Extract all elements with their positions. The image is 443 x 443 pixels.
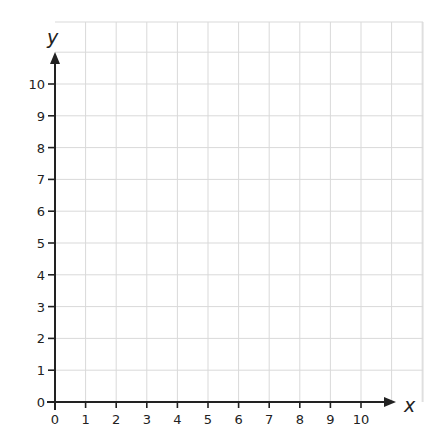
x-tick-label: 9 [326,412,334,427]
y-tick-label: 10 [28,77,45,92]
x-tick-label: 7 [265,412,273,427]
x-axis-arrow-icon [384,397,396,407]
y-axis-label: y [46,26,59,48]
y-tick-label: 1 [37,363,45,378]
y-tick-label: 0 [37,395,45,410]
axes [47,52,396,410]
x-tick-label: 5 [204,412,212,427]
coordinate-grid-chart: 012345678910012345678910 x y [0,0,443,443]
y-tick-label: 4 [37,268,45,283]
y-tick-label: 2 [37,331,45,346]
y-axis-arrow-icon [50,52,60,64]
y-tick-label: 7 [37,172,45,187]
x-tick-label: 1 [81,412,89,427]
x-tick-label: 10 [353,412,370,427]
ticks [48,84,361,408]
x-axis-label: x [403,394,416,416]
y-tick-label: 6 [37,204,45,219]
y-tick-label: 5 [37,236,45,251]
y-tick-label: 8 [37,141,45,156]
x-tick-label: 6 [234,412,242,427]
y-tick-label: 9 [37,109,45,124]
x-tick-label: 4 [173,412,181,427]
x-tick-label: 2 [112,412,120,427]
x-tick-label: 0 [51,412,59,427]
x-tick-label: 8 [296,412,304,427]
tick-labels: 012345678910012345678910 [28,77,369,427]
y-tick-label: 3 [37,300,45,315]
grid-lines [55,22,423,402]
x-tick-label: 3 [143,412,151,427]
